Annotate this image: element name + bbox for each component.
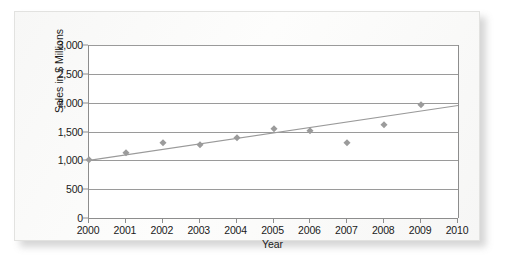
- y-axis-tick-label: 2,000: [58, 97, 83, 109]
- x-axis-tick-label: 2000: [77, 224, 100, 236]
- x-axis-tick-mark: [383, 218, 384, 223]
- y-axis-tick-label: 3,000: [58, 39, 83, 51]
- x-axis-tick-label: 2007: [335, 224, 358, 236]
- x-axis-tick-mark: [236, 218, 237, 223]
- x-axis-tick-label: 2001: [114, 224, 137, 236]
- y-axis-tick-label: 2,500: [58, 68, 83, 80]
- x-axis-tick-label: 2006: [298, 224, 321, 236]
- x-axis-title: Year: [88, 238, 457, 250]
- x-axis-tick-label: 2003: [187, 224, 210, 236]
- x-axis-tick-mark: [346, 218, 347, 223]
- x-axis-tick-labels: 2000200120022003200420052006200720082009…: [88, 218, 457, 240]
- chart-page: Sales in $ Millions 05001,0001,5002,0002…: [0, 0, 506, 262]
- x-axis-tick-mark: [199, 218, 200, 223]
- x-axis-tick-mark: [309, 218, 310, 223]
- y-axis-tick-labels: 05001,0001,5002,0002,5003,000: [41, 45, 83, 218]
- x-axis-tick-label: 2004: [224, 224, 247, 236]
- x-axis-tick-label: 2008: [372, 224, 395, 236]
- y-axis-tick-label: 1,000: [58, 154, 83, 166]
- chart-card: Sales in $ Millions 05001,0001,5002,0002…: [14, 11, 480, 241]
- x-axis-tick-mark: [273, 218, 274, 223]
- x-axis-tick-label: 2009: [409, 224, 432, 236]
- y-axis-tick-label: 1,500: [58, 126, 83, 138]
- x-axis-tick-label: 2010: [446, 224, 469, 236]
- x-axis-tick-mark: [162, 218, 163, 223]
- y-axis-tick-label: 500: [66, 183, 83, 195]
- x-axis-tick-mark: [88, 218, 89, 223]
- x-axis-tick-mark: [457, 218, 458, 223]
- x-axis-tick-label: 2005: [261, 224, 284, 236]
- x-axis-tick-mark: [420, 218, 421, 223]
- plot-area: [88, 45, 459, 218]
- x-axis-tick-mark: [125, 218, 126, 223]
- x-axis-tick-label: 2002: [151, 224, 174, 236]
